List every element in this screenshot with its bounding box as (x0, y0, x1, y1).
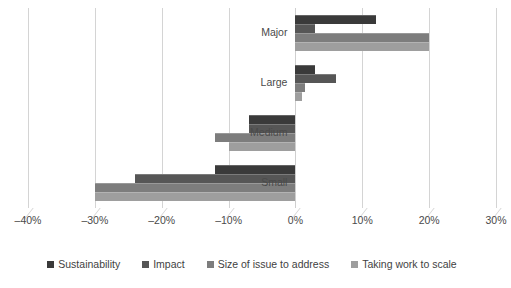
bar[interactable] (295, 83, 305, 92)
legend-item[interactable]: Sustainability (47, 258, 120, 270)
bar-row (28, 92, 496, 101)
legend-label: Taking work to scale (362, 258, 457, 270)
bar-row (28, 142, 496, 151)
x-tick-label: –20% (148, 214, 175, 226)
bar-row (28, 115, 496, 124)
bar-row (28, 165, 496, 174)
legend-label: Impact (153, 258, 185, 270)
x-tick-label: –30% (81, 214, 108, 226)
bar[interactable] (295, 15, 375, 24)
bar[interactable] (295, 24, 315, 33)
legend-item[interactable]: Impact (142, 258, 185, 270)
x-tick-label: –40% (15, 214, 42, 226)
chart-legend: SustainabilityImpactSize of issue to add… (0, 258, 504, 270)
category-label-medium: Medium (221, 126, 287, 138)
legend-item[interactable]: Taking work to scale (351, 258, 457, 270)
category-label-small: Small (221, 176, 287, 188)
bar-row (28, 42, 496, 51)
bar[interactable] (215, 165, 295, 174)
legend-label: Size of issue to address (218, 258, 329, 270)
legend-item[interactable]: Size of issue to address (207, 258, 329, 270)
gridline (496, 8, 497, 208)
x-tick-label: –10% (215, 214, 242, 226)
x-tick-label: 20% (419, 214, 440, 226)
bar[interactable] (295, 65, 315, 74)
bar[interactable] (295, 74, 335, 83)
bar-row (28, 65, 496, 74)
x-tick-label: 10% (352, 214, 373, 226)
category-label-large: Large (221, 76, 287, 88)
bar-row (28, 15, 496, 24)
bar[interactable] (295, 33, 429, 42)
bar[interactable] (95, 192, 296, 201)
legend-swatch-icon (351, 261, 358, 268)
bar[interactable] (295, 92, 302, 101)
plot-area: MajorLargeMediumSmall (28, 8, 496, 208)
x-tick-label: 30% (485, 214, 506, 226)
bar[interactable] (295, 42, 429, 51)
legend-swatch-icon (207, 261, 214, 268)
bar[interactable] (249, 115, 296, 124)
category-label-major: Major (221, 26, 287, 38)
bar[interactable] (229, 142, 296, 151)
x-tick-label: 0% (288, 214, 303, 226)
x-axis: –40%–30%–20%–10%0%10%20%30% (28, 214, 496, 236)
legend-swatch-icon (142, 261, 149, 268)
bar-row (28, 192, 496, 201)
legend-swatch-icon (47, 261, 54, 268)
legend-label: Sustainability (58, 258, 120, 270)
